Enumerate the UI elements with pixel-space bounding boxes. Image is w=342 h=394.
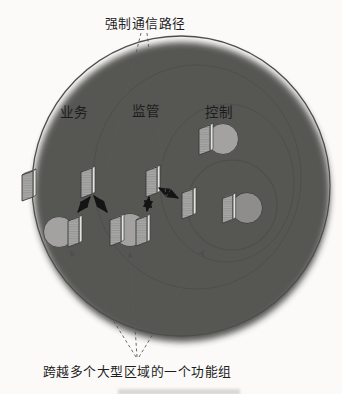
interface-panel-business-edge xyxy=(22,169,36,201)
top-annotation-label: 强制通信路径 xyxy=(105,16,186,31)
zone-label-supervision: 监管 xyxy=(132,103,161,119)
function-group-2-right-panel xyxy=(136,214,150,246)
control-top-group-panel xyxy=(199,123,213,155)
function-group-2-left-panel xyxy=(110,214,124,246)
diagram-canvas: 强制通信路径 业务 监管 控制 跨越多个大型区域的一个功能组 xyxy=(0,0,342,394)
zone-label-business: 业务 xyxy=(60,104,89,120)
interface-panel-supervision-edge xyxy=(81,166,95,198)
interface-panel-inner-edge xyxy=(182,187,196,219)
inner-group-dark-circle xyxy=(232,193,263,224)
inner-group-panel xyxy=(222,193,235,223)
cropped-caption-remnant xyxy=(118,389,240,394)
interface-panel-control-edge xyxy=(146,165,160,197)
zone-label-control: 控制 xyxy=(205,104,234,120)
bottom-annotation-label: 跨越多个大型区域的一个功能组 xyxy=(43,364,232,379)
function-group-1-panel xyxy=(68,215,82,247)
outer-zone-drop-shadow xyxy=(34,42,330,342)
